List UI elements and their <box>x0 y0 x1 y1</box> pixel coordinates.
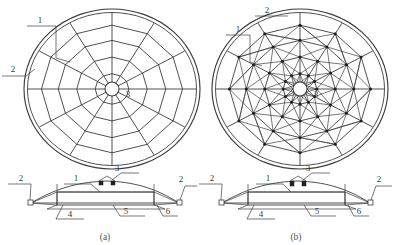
joint-node <box>263 88 266 91</box>
joint-node <box>237 119 240 122</box>
callout-4-elev-b: 4 <box>259 209 264 219</box>
support-right-a <box>177 200 182 205</box>
joint-node <box>299 24 302 27</box>
bottom-taper-right-b <box>345 205 356 209</box>
joint-node <box>307 101 310 104</box>
joint-node <box>299 136 302 139</box>
joint-node <box>237 56 240 59</box>
brace <box>253 89 264 113</box>
spoke <box>118 51 185 86</box>
leader-1-elev-b <box>256 184 291 192</box>
brace <box>300 40 318 61</box>
brace <box>327 105 331 131</box>
joint-node <box>284 80 287 83</box>
support-left-a <box>28 200 33 205</box>
callout-2-elev-b-left: 2 <box>210 173 215 183</box>
joint-node <box>290 74 293 77</box>
callout-1-elev-b: 1 <box>266 173 271 183</box>
joint-node <box>299 103 302 106</box>
joint-node <box>272 45 275 48</box>
support-right-b <box>368 200 373 205</box>
caption-b: (b) <box>290 232 301 243</box>
brace <box>246 89 269 105</box>
plan-view-a: 1 2 3 <box>2 9 200 169</box>
callout-3-plan-a: 3 <box>126 89 131 99</box>
joint-node <box>345 63 348 66</box>
joint-node <box>307 74 310 77</box>
apex-tie-a <box>99 176 115 181</box>
joint-node <box>268 72 271 75</box>
spoke <box>116 94 155 154</box>
joint-node <box>284 95 287 98</box>
callout-2-plan-b: 2 <box>265 5 270 15</box>
callout-3-elev-b: 3 <box>306 163 311 173</box>
joint-node <box>252 112 255 115</box>
joint-node <box>325 130 328 133</box>
callout-5-elev-a: 5 <box>124 206 129 216</box>
spoke <box>70 23 109 83</box>
brace <box>300 117 318 138</box>
joint-node <box>263 143 266 146</box>
joint-node <box>329 103 332 106</box>
joint-node <box>299 119 302 122</box>
brace <box>300 121 327 131</box>
joint-node <box>272 130 275 133</box>
bottom-taper-right-a <box>154 205 165 209</box>
joint-node <box>268 103 271 106</box>
brace <box>335 65 346 89</box>
spoke <box>39 92 106 127</box>
brace <box>253 113 282 116</box>
joint-node <box>316 115 319 118</box>
bottom-taper-left-a <box>47 205 57 209</box>
brace <box>318 61 347 64</box>
apex-post-right-a <box>111 181 115 185</box>
callout-2-elev-a-left: 2 <box>19 173 24 183</box>
brace <box>269 47 273 73</box>
leader-2-elev-b-right <box>371 186 392 200</box>
center-hub-a <box>105 82 119 96</box>
brace <box>335 89 346 113</box>
callout-6-elev-b: 6 <box>357 206 362 216</box>
brace <box>327 47 331 73</box>
joint-node <box>360 56 363 59</box>
brace <box>246 73 269 89</box>
leader-2-elev-b-left <box>199 184 222 200</box>
plan-view-b: 2 1 3 <box>212 5 388 169</box>
apex-tie-b <box>290 176 306 181</box>
brace <box>282 40 300 61</box>
leader-1-plan-a <box>27 26 70 62</box>
callout-2-elev-a-right: 2 <box>179 174 184 184</box>
joint-node <box>329 72 332 75</box>
joint-node <box>263 32 266 35</box>
spoke <box>39 51 106 86</box>
joint-node <box>290 101 293 104</box>
leader-2-elev-a-right <box>180 186 197 200</box>
callout-1-plan-b: 1 <box>236 24 241 34</box>
joint-node <box>245 88 248 91</box>
joint-node <box>334 32 337 35</box>
apex-post-right-b <box>302 181 306 186</box>
leader-1-elev-a <box>64 184 100 192</box>
callout-3-elev-a: 3 <box>115 163 120 173</box>
leader-2-elev-a-left <box>8 184 31 200</box>
brace <box>282 117 300 138</box>
joint-node <box>325 45 328 48</box>
joint-node <box>282 88 285 91</box>
apex-post-left-a <box>99 181 103 185</box>
leader-5-elev-a <box>113 205 145 216</box>
joint-node <box>345 112 348 115</box>
apex-post-left-b <box>290 181 294 186</box>
callout-4-elev-a: 4 <box>68 209 73 219</box>
brace <box>273 121 300 131</box>
joint-node <box>228 88 231 91</box>
joint-node <box>281 115 284 118</box>
joint-node <box>316 60 319 63</box>
brace <box>253 65 264 89</box>
joint-node <box>352 88 355 91</box>
brace <box>331 89 354 105</box>
joint-node <box>313 80 316 83</box>
support-left-b <box>219 200 224 205</box>
brace <box>269 105 273 131</box>
engineering-figure: 1 2 3 2 1 3 <box>0 0 399 245</box>
elevation-view-b: 1 3 2 2 4 5 6 <box>199 163 392 219</box>
